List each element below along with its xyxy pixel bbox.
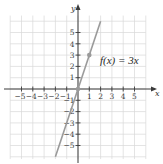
x-tick-label: 2 (98, 92, 103, 101)
y-tick-label: 3 (70, 51, 75, 60)
x-axis-label: x (155, 89, 160, 98)
y-tick-label: −4 (63, 130, 74, 139)
y-tick-label: 4 (70, 40, 75, 49)
y-axis-arrow-icon (76, 4, 81, 10)
x-tick-label: −5 (14, 92, 25, 101)
function-label: f(x) = 3x (100, 54, 139, 67)
y-axis-label: y (70, 4, 76, 13)
y-tick-label: 2 (70, 62, 75, 71)
x-tick-label: 4 (121, 92, 126, 101)
x-tick-label: 5 (132, 92, 137, 101)
data-point (87, 53, 92, 58)
data-point (76, 87, 81, 92)
x-tick-label: −3 (37, 92, 48, 101)
x-tick-label: −4 (26, 92, 37, 101)
y-tick-label: −5 (63, 141, 74, 150)
x-tick-label: 1 (87, 92, 92, 101)
x-tick-label: −2 (48, 92, 59, 101)
y-tick-label: 1 (70, 73, 75, 82)
x-tick-label: 3 (110, 92, 115, 101)
function-graph: −5−4−3−2−112345−5−4−3−2−112345 x y f(x) … (0, 0, 163, 164)
y-tick-label: 5 (70, 28, 75, 37)
